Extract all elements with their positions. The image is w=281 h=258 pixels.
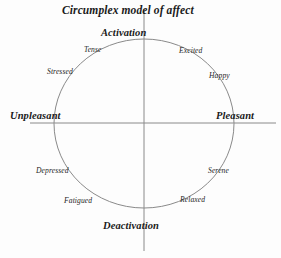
emotion-fatigued: Fatigued: [64, 197, 92, 205]
emotion-excited: Excited: [179, 47, 202, 55]
axis-label-deactivation: Deactivation: [103, 221, 159, 232]
emotion-tense: Tense: [84, 46, 102, 54]
circumplex-model-figure: Circumplex model of affect Activation De…: [0, 0, 281, 258]
figure-title: Circumplex model of affect: [62, 5, 194, 17]
emotion-depressed: Depressed: [36, 167, 69, 175]
emotion-happy: Happy: [209, 72, 230, 80]
emotion-stressed: Stressed: [47, 68, 73, 76]
emotion-relaxed: Relaxed: [180, 196, 205, 204]
emotion-serene: Serene: [208, 167, 229, 175]
axis-label-pleasant: Pleasant: [216, 111, 254, 122]
axis-label-activation: Activation: [101, 28, 146, 39]
axis-label-unpleasant: Unpleasant: [10, 111, 61, 122]
